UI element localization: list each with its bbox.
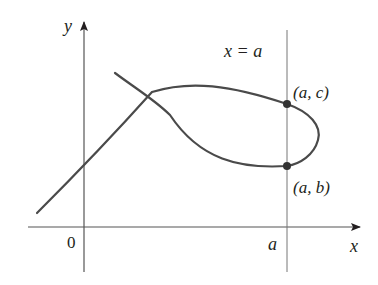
x-tick-label-a: a <box>268 234 277 254</box>
x-axis-label: x <box>349 236 358 256</box>
point-label-a-c: (a, c) <box>293 83 329 102</box>
diagram-canvas: y x 0 a x = a (a, c) (a, b) <box>0 0 378 285</box>
origin-label: 0 <box>67 233 76 252</box>
point-a-b <box>283 162 291 170</box>
point-label-a-b: (a, b) <box>293 178 330 197</box>
curve <box>37 73 319 213</box>
y-axis-label: y <box>62 16 72 36</box>
vertical-line-label: x = a <box>223 41 262 61</box>
point-a-c <box>283 100 291 108</box>
